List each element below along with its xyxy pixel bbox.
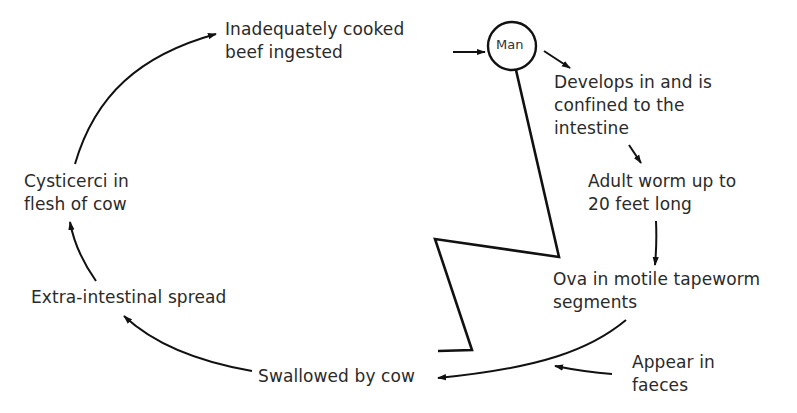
stage-develops-line-2: confined to the [554,94,712,117]
arrow-spread-to-cysticerci [70,222,96,281]
arrow-swallowed-to-spread [124,316,252,371]
stage-develops-line-3: intestine [554,117,712,140]
stage-ova-line-1: Ova in motile tapeworm [553,268,760,291]
stage-adult: Adult worm up to 20 feet long [588,170,736,216]
stage-ingested-line-2: beef ingested [225,41,404,64]
stage-swallowed-line-1: Swallowed by cow [258,365,415,388]
stage-develops: Develops in and is confined to the intes… [554,71,712,140]
arrow-man-to-develops [544,51,570,68]
stage-adult-line-1: Adult worm up to [588,170,736,193]
tapeworm-life-cycle-diagram: Man Inadequately cooked beef ingested De… [0,0,797,413]
stage-ingested-line-1: Inadequately cooked [225,18,404,41]
arrow-develops-to-adult [629,145,641,163]
stage-spread-line-1: Extra-intestinal spread [31,286,226,309]
stage-develops-line-1: Develops in and is [554,71,712,94]
stage-faeces-line-2: faeces [632,374,715,397]
stage-spread: Extra-intestinal spread [31,286,226,309]
stage-faeces: Appear in faeces [632,351,715,397]
stage-ova-line-2: segments [553,291,760,314]
arrow-adult-to-ova [655,221,656,265]
stage-faeces-line-1: Appear in [632,351,715,374]
stage-ingested: Inadequately cooked beef ingested [225,18,404,64]
arrow-faeces-pointer [555,366,612,374]
stage-cysticerci-line-1: Cysticerci in [24,170,129,193]
man-label: Man [496,37,523,53]
stage-cysticerci: Cysticerci in flesh of cow [24,170,129,216]
stage-cysticerci-line-2: flesh of cow [24,193,129,216]
stage-ova: Ova in motile tapeworm segments [553,268,760,314]
arrow-cysticerci-to-ingested [75,34,216,164]
tapeworm-zigzag-line [435,70,559,351]
stage-swallowed: Swallowed by cow [258,365,415,388]
stage-adult-line-2: 20 feet long [588,193,736,216]
